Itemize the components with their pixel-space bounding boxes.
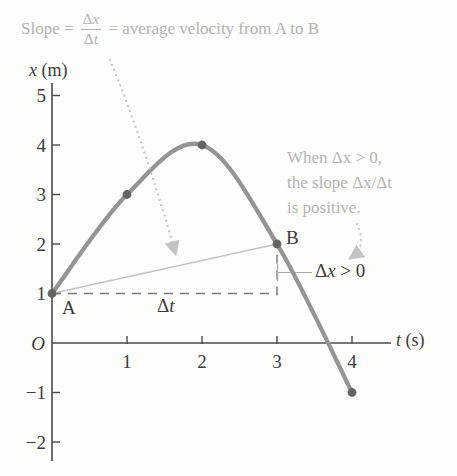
- position-time-graph-figure: 54321−1−2O1234 Slope = Δx Δt = average v…: [0, 0, 457, 476]
- x-axis-unit: (s): [406, 330, 425, 350]
- x-axis-variable: t: [396, 330, 401, 350]
- note-line-1: When Δx > 0,: [287, 145, 392, 170]
- positive-slope-note: When Δx > 0, the slope Δx/Δt is positive…: [287, 145, 392, 220]
- x-tick-label: 2: [197, 351, 207, 372]
- delta-symbol: Δ: [157, 295, 169, 316]
- slope-annotation-prefix: Slope =: [21, 19, 74, 39]
- slope-annotation-suffix: = average velocity from A to B: [108, 19, 319, 39]
- y-tick-label: 5: [37, 85, 47, 106]
- plot-canvas: 54321−1−2O1234: [0, 0, 457, 476]
- slope-annotation: Slope = Δx Δt = average velocity from A …: [21, 10, 319, 49]
- y-axis-label: x (m): [29, 60, 68, 81]
- delta-t-label: Δt: [157, 295, 175, 317]
- x-tick-label: 3: [272, 351, 282, 372]
- data-point: [198, 141, 207, 150]
- fraction-denominator: Δt: [82, 30, 100, 49]
- y-tick-label: 4: [37, 135, 47, 156]
- y-tick-label: −2: [26, 432, 46, 453]
- data-point: [273, 240, 282, 249]
- fraction-numerator: Δx: [81, 10, 102, 30]
- x-axis-label: t (s): [396, 330, 425, 351]
- variable-t: t: [169, 295, 174, 316]
- delta-symbol: Δ: [315, 260, 327, 281]
- delta-symbol: Δ: [83, 10, 93, 27]
- variable-t: t: [94, 30, 98, 47]
- variable-x: x: [327, 260, 335, 281]
- y-tick-label: 1: [37, 283, 47, 304]
- point-b-label: B: [286, 227, 299, 249]
- y-tick-label: 3: [37, 184, 47, 205]
- greater-than-zero-text: > 0: [336, 260, 366, 281]
- x-tick-label: 4: [347, 351, 357, 372]
- data-point: [123, 190, 132, 199]
- y-axis-unit: (m): [42, 60, 68, 80]
- variable-x: x: [93, 10, 100, 27]
- y-tick-label: −1: [26, 382, 46, 403]
- secant-line-a-to-b: [52, 244, 277, 294]
- delta-symbol: Δ: [84, 30, 94, 47]
- delta-x-positive-label: Δx > 0: [315, 260, 365, 282]
- data-point: [348, 388, 357, 397]
- data-point: [48, 289, 57, 298]
- note-annotation-arrow: [352, 224, 361, 257]
- note-line-2: the slope Δx/Δt: [287, 170, 392, 195]
- origin-label: O: [31, 333, 45, 354]
- point-a-label: A: [62, 297, 76, 319]
- x-tick-label: 1: [122, 351, 132, 372]
- y-axis-variable: x: [29, 60, 37, 80]
- note-line-3: is positive.: [287, 195, 392, 220]
- delta-x-over-delta-t-fraction: Δx Δt: [81, 10, 102, 49]
- y-tick-label: 2: [37, 234, 47, 255]
